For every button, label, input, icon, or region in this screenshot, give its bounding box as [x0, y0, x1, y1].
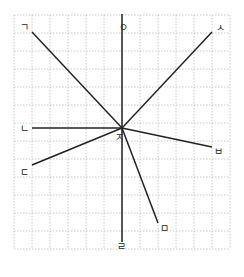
label-mieum: ㅁ — [160, 223, 169, 234]
label-giyeok: ㄱ — [20, 22, 29, 33]
rays — [32, 14, 212, 242]
label-digeut: ㄷ — [20, 167, 29, 178]
label-bieup: ㅂ — [214, 146, 223, 157]
label-rieul: ㄹ — [117, 241, 126, 252]
label-nieun: ㄴ — [20, 123, 29, 134]
ray-giyeok — [32, 32, 122, 128]
label-siot: ㅅ — [216, 22, 225, 33]
label-jieut: ㅈ — [115, 132, 124, 143]
ray-digeut — [32, 128, 122, 165]
ray-bieup — [122, 128, 212, 147]
ray-diagram: ㄱ ㅇ ㅅ ㄴ ㅈ ㅂ ㄷ ㅁ ㄹ — [0, 0, 244, 277]
ray-siot — [122, 32, 212, 128]
label-ieung: ㅇ — [119, 22, 128, 33]
